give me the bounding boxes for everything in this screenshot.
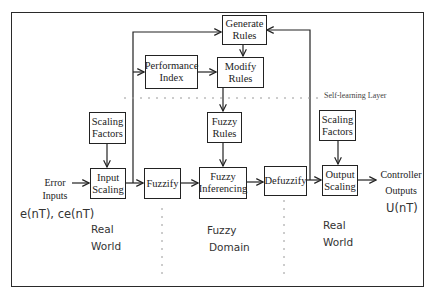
block-label: Scaling: [92, 184, 124, 196]
block-label: Fuzzify: [146, 178, 178, 190]
output-scaling-block: Output Scaling: [322, 165, 358, 196]
block-label: Rules: [213, 128, 237, 140]
label-line: World: [91, 238, 121, 255]
self-learning-layer-label: Self-learning Layer: [324, 91, 386, 100]
modify-rules-block: Modify Rules: [217, 57, 264, 88]
label-line: Fuzzy: [207, 222, 250, 239]
block-label: Rules: [233, 30, 257, 42]
defuzzify-block: Defuzzify: [264, 166, 307, 196]
block-label: Scaling: [324, 181, 356, 193]
block-label: Inferencing: [199, 183, 247, 195]
label-line: World: [323, 234, 353, 251]
block-label: Defuzzify: [265, 175, 307, 187]
block-label: Scaling: [92, 116, 124, 128]
label-line: Real: [323, 217, 353, 234]
block-label: Scaling: [322, 114, 354, 126]
domain-label-left: Real World: [91, 221, 121, 255]
fuzzy-controller-diagram: Generate Rules Modify Rules Performance …: [0, 0, 432, 295]
label-line: Outputs: [378, 183, 424, 199]
fuzzy-rules-block: Fuzzy Rules: [207, 112, 242, 143]
block-label: Index: [160, 72, 184, 84]
input-signals-label: e(nT), ce(nT): [20, 207, 94, 221]
label-line: Real: [91, 221, 121, 238]
domain-label-right: Real World: [323, 217, 353, 251]
input-scaling-factors-block: Scaling Factors: [89, 112, 126, 144]
fuzzify-block: Fuzzify: [144, 168, 181, 199]
block-label: Generate: [226, 18, 264, 30]
block-label: Factors: [322, 126, 353, 138]
block-label: Performance: [145, 60, 199, 72]
output-scaling-factors-block: Scaling Factors: [319, 110, 356, 141]
label-line: Inputs: [40, 189, 70, 202]
block-label: Modify: [225, 61, 257, 73]
label-line: Controller: [378, 167, 424, 183]
block-label: Output: [325, 169, 354, 181]
generate-rules-block: Generate Rules: [222, 15, 267, 45]
output-signal-label: U(nT): [386, 201, 418, 215]
block-label: Rules: [229, 73, 253, 85]
block-label: Fuzzy: [212, 116, 238, 128]
block-label: Input: [97, 172, 119, 184]
controller-outputs-label: Controller Outputs: [378, 167, 424, 199]
input-scaling-block: Input Scaling: [90, 168, 126, 199]
block-label: Factors: [92, 128, 123, 140]
fuzzy-inferencing-block: Fuzzy Inferencing: [199, 167, 247, 199]
label-line: Error: [40, 176, 70, 189]
domain-label-center: Fuzzy Domain: [207, 222, 250, 256]
label-line: Domain: [207, 239, 250, 256]
error-inputs-label: Error Inputs: [40, 176, 70, 202]
block-label: Fuzzy: [210, 171, 236, 183]
performance-index-block: Performance Index: [145, 55, 198, 89]
